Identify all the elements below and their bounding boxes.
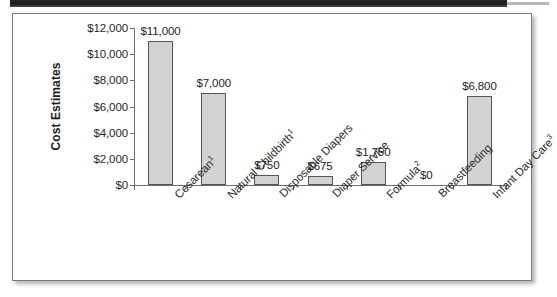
bar-value-label: $11,000: [141, 25, 181, 37]
y-axis-title: Cost Estimates: [49, 28, 63, 185]
scan-artifact-band-tail: [507, 2, 549, 5]
bar-value-label: $7,000: [196, 77, 231, 89]
y-axis-tick-label: $10,000: [87, 48, 128, 60]
y-axis-line: [134, 28, 135, 186]
y-axis-tick-mark: [130, 28, 134, 29]
chart-frame: Cost Estimates $0$2,000$4,000$6,000$8,00…: [12, 13, 532, 281]
y-axis-tick-label: $4,000: [93, 127, 128, 139]
x-axis-tick-mark: [134, 185, 135, 190]
y-axis-tick-mark: [130, 54, 134, 55]
y-axis-tick-label: $8,000: [93, 74, 128, 86]
bar: [254, 175, 279, 185]
scan-artifact-band: [10, 0, 507, 7]
y-axis-tick-mark: [130, 107, 134, 108]
y-axis-tick-label: $0: [115, 179, 128, 191]
y-axis-tick-label: $6,000: [93, 101, 128, 113]
bar-value-label: $6,800: [462, 80, 497, 92]
bar: [308, 176, 333, 185]
y-axis-tick-mark: [130, 159, 134, 160]
y-axis-tick-label: $12,000: [87, 22, 128, 34]
y-axis-tick-label: $2,000: [93, 153, 128, 165]
y-axis-tick-mark: [130, 133, 134, 134]
bar: [148, 41, 173, 185]
y-axis-tick-mark: [130, 80, 134, 81]
